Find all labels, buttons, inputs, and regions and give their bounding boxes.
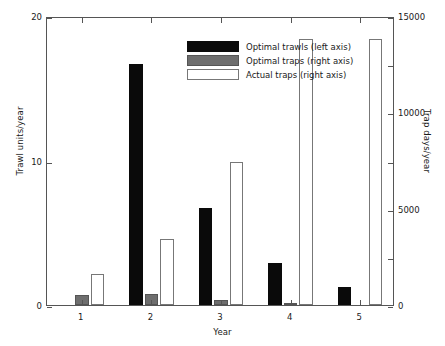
y-left-tick xyxy=(47,307,52,308)
bar-optimal-trawls-year-2 xyxy=(129,64,143,305)
bar-actual-traps-year-3 xyxy=(230,162,244,305)
x-tick-top xyxy=(360,18,361,23)
y-right-tick-label: 5000 xyxy=(394,205,420,215)
y-left-tick xyxy=(47,163,52,164)
x-tick-label-5: 5 xyxy=(356,312,361,322)
legend-item: Optimal trawls (left axis) xyxy=(187,41,353,52)
legend-swatch-icon xyxy=(187,41,239,52)
x-tick xyxy=(291,300,292,305)
x-tick-label-4: 4 xyxy=(287,312,292,322)
x-tick-top xyxy=(221,18,222,23)
bar-actual-traps-year-1 xyxy=(91,274,105,305)
bar-optimal-trawls-year-5 xyxy=(338,287,352,305)
y-right-tick-label: 15000 xyxy=(394,12,425,22)
chart-legend: Optimal trawls (left axis)Optimal traps … xyxy=(187,41,353,80)
x-tick-label-1: 1 xyxy=(78,312,83,322)
legend-label: Optimal trawls (left axis) xyxy=(246,42,351,52)
legend-label: Optimal traps (right axis) xyxy=(246,56,353,66)
x-tick xyxy=(151,300,152,305)
y-right-tick xyxy=(388,18,393,19)
y-left-tick-label: 10 xyxy=(31,157,46,167)
x-axis-title: Year xyxy=(0,327,445,337)
y-left-tick xyxy=(47,18,52,19)
bar-actual-traps-year-5 xyxy=(369,39,383,305)
legend-item: Actual traps (right axis) xyxy=(187,69,353,80)
bar-optimal-trawls-year-4 xyxy=(268,263,282,305)
x-tick-top xyxy=(291,18,292,23)
legend-label: Actual traps (right axis) xyxy=(246,70,346,80)
x-tick xyxy=(82,300,83,305)
y-right-tick xyxy=(388,211,393,212)
bar-optimal-trawls-year-3 xyxy=(199,208,213,305)
bar-actual-traps-year-2 xyxy=(160,239,174,305)
x-tick-label-2: 2 xyxy=(148,312,153,322)
y-left-tick-label: 20 xyxy=(31,12,46,22)
legend-swatch-icon xyxy=(187,55,239,66)
y-right-tick-label: 0 xyxy=(394,301,403,311)
x-tick xyxy=(360,300,361,305)
y-right-tick xyxy=(388,114,393,115)
y-axis-right-title: Trap days/year xyxy=(422,81,432,201)
bar-chart-figure: Trawl units/year Trap days/year Year Opt… xyxy=(0,0,445,346)
y-left-tick-label: 0 xyxy=(37,301,46,311)
x-tick-top xyxy=(82,18,83,23)
y-right-tick-label: 10000 xyxy=(394,108,425,118)
y-right-tick xyxy=(388,66,393,67)
y-right-tick xyxy=(388,163,393,164)
y-right-tick xyxy=(388,307,393,308)
x-tick-top xyxy=(151,18,152,23)
x-tick xyxy=(221,300,222,305)
legend-swatch-icon xyxy=(187,69,239,80)
y-axis-left-title: Trawl units/year xyxy=(15,81,25,201)
y-right-tick xyxy=(388,259,393,260)
plot-area: Optimal trawls (left axis)Optimal traps … xyxy=(46,17,394,306)
legend-item: Optimal traps (right axis) xyxy=(187,55,353,66)
x-tick-label-3: 3 xyxy=(217,312,222,322)
